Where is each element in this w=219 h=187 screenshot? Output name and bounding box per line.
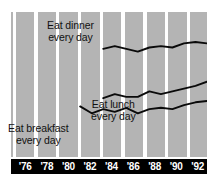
x-axis-tick-0: '76	[19, 160, 32, 173]
annotation-eat-lunch: Eat lunch every day	[91, 99, 136, 122]
annotation-eat-breakfast-line2: every day	[8, 135, 69, 147]
annotation-eat-dinner: Eat dinner every day	[47, 20, 94, 43]
x-axis-tick-8: '92	[191, 160, 204, 173]
annotation-eat-breakfast: Eat breakfast every day	[8, 123, 69, 146]
x-axis-tick-4: '84	[105, 160, 118, 173]
annotation-eat-breakfast-line1: Eat breakfast	[8, 123, 69, 135]
x-axis-tick-2: '80	[62, 160, 75, 173]
x-axis-tick-7: '90	[170, 160, 183, 173]
line-eat-lunch	[103, 82, 207, 98]
line-eat-dinner	[103, 42, 207, 52]
x-axis-tick-3: '82	[84, 160, 97, 173]
x-axis-tick-labels: '76'78'80'82'84'86'88'90'92	[11, 159, 207, 174]
x-axis-tick-1: '78	[40, 160, 53, 173]
annotation-eat-dinner-line2: every day	[47, 32, 94, 44]
chart-container: Eat dinner every day Eat lunch every day…	[0, 0, 219, 187]
x-axis-tick-5: '86	[127, 160, 140, 173]
x-axis-bar: '76'78'80'82'84'86'88'90'92	[11, 159, 207, 174]
annotation-eat-lunch-line2: every day	[91, 111, 136, 123]
annotation-eat-lunch-line1: Eat lunch	[91, 99, 136, 111]
x-axis-tick-6: '88	[148, 160, 161, 173]
annotation-eat-dinner-line1: Eat dinner	[47, 20, 94, 32]
